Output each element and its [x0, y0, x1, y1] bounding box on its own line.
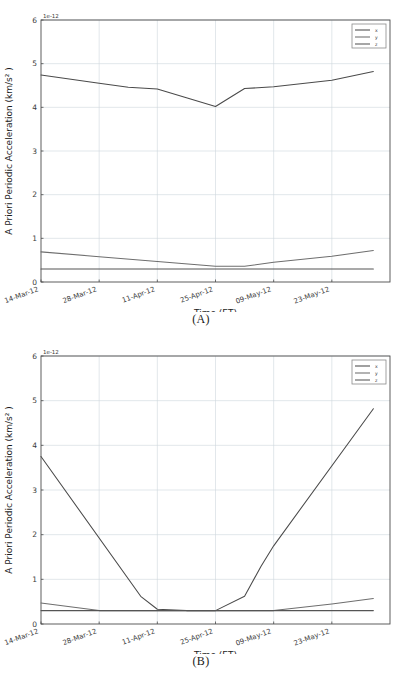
chart-a-svg: 01234561e-1214-Mar-1228-Mar-1211-Apr-122…: [0, 0, 402, 312]
y-tick-label: 2: [32, 530, 37, 539]
legend-label-y: y: [375, 35, 378, 40]
y-axis-exponent-label: 1e-12: [43, 349, 59, 355]
y-tick-label: 3: [32, 147, 37, 156]
x-tick-label: 09-May-12: [235, 285, 273, 305]
legend-label-y: y: [375, 371, 378, 376]
y-tick-label: 3: [32, 486, 37, 495]
series-line-x: [41, 72, 373, 107]
y-tick-label: 6: [32, 16, 37, 25]
y-axis-title: A Priori Periodic Acceleration (km/s² ): [4, 67, 14, 234]
y-tick-label: 4: [32, 441, 37, 450]
x-tick-label: 23-May-12: [293, 627, 331, 647]
x-tick-label: 09-May-12: [235, 627, 273, 647]
y-tick-label: 4: [32, 103, 37, 112]
series-line-x: [41, 409, 373, 611]
chart-panel-a: 01234561e-1214-Mar-1228-Mar-1211-Apr-122…: [0, 0, 402, 336]
legend-label-x: x: [375, 28, 378, 33]
legend-label-x: x: [375, 364, 378, 369]
y-tick-label: 2: [32, 190, 37, 199]
chart-a-plot: 01234561e-1214-Mar-1228-Mar-1211-Apr-122…: [3, 13, 390, 313]
y-axis-title: A Priori Periodic Acceleration (km/s² ): [4, 406, 14, 573]
y-tick-label: 5: [32, 396, 37, 405]
x-tick-label: 14-Mar-12: [3, 627, 39, 647]
y-tick-label: 1: [32, 234, 37, 243]
chart-panel-b: 01234561e-1214-Mar-1228-Mar-1211-Apr-122…: [0, 336, 402, 679]
chart-b-svg: 01234561e-1214-Mar-1228-Mar-1211-Apr-122…: [0, 336, 402, 654]
y-tick-label: 6: [32, 352, 37, 361]
x-tick-label: 28-Mar-12: [62, 285, 98, 305]
series-line-y: [41, 251, 373, 267]
panel-a-caption: (A): [0, 312, 402, 327]
x-tick-label: 25-Apr-12: [179, 285, 214, 304]
panel-b-caption: (B): [0, 654, 402, 669]
x-tick-label: 23-May-12: [293, 285, 331, 305]
x-tick-label: 11-Apr-12: [121, 627, 156, 646]
x-tick-label: 11-Apr-12: [121, 285, 156, 304]
x-tick-label: 14-Mar-12: [3, 285, 39, 305]
figure-container: 01234561e-1214-Mar-1228-Mar-1211-Apr-122…: [0, 0, 402, 679]
chart-b-plot: 01234561e-1214-Mar-1228-Mar-1211-Apr-122…: [3, 349, 390, 655]
y-tick-label: 5: [32, 59, 37, 68]
x-tick-label: 25-Apr-12: [179, 627, 214, 646]
y-tick-label: 1: [32, 575, 37, 584]
y-axis-exponent-label: 1e-12: [43, 13, 59, 19]
series-line-y: [41, 599, 373, 611]
x-tick-label: 28-Mar-12: [62, 627, 98, 647]
